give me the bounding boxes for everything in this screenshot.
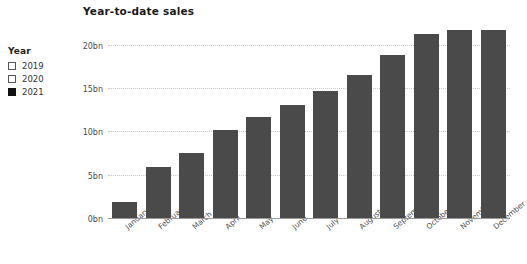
legend-item-label: 2019 [22,61,44,71]
y-axis-tick-label: 10bn [83,128,103,137]
bar[interactable] [481,30,506,219]
bar[interactable] [380,55,405,219]
x-axis-line [108,218,510,219]
bar-slot: May [242,24,276,219]
bar[interactable] [213,130,238,219]
bar-slot: October [410,24,444,219]
legend-item-label: 2021 [22,87,44,97]
checkbox-unchecked-icon[interactable] [8,75,16,83]
bar-slot: January [108,24,142,219]
bar-group: JanuaryFebruaryMarchAprilMayJuneJulyAugu… [108,24,510,219]
bar[interactable] [414,34,439,219]
legend-item-2020[interactable]: 2020 [8,74,74,84]
checkbox-checked-icon[interactable] [8,88,16,96]
bar-slot: February [142,24,176,219]
bar[interactable] [146,167,171,219]
y-axis-tick-label: 0bn [88,215,103,224]
y-axis-tick-label: 20bn [83,41,103,50]
legend-item-label: 2020 [22,74,44,84]
y-axis-tick-label: 15bn [83,85,103,94]
bar-slot: July [309,24,343,219]
bar-slot: April [209,24,243,219]
bar[interactable] [347,75,372,219]
bar-slot: September [376,24,410,219]
bar-slot: August [343,24,377,219]
legend-items: 201920202021 [8,61,74,97]
bar[interactable] [179,153,204,219]
bar[interactable] [313,91,338,219]
bar[interactable] [280,105,305,219]
y-axis-tick-label: 5bn [88,171,103,180]
legend-title: Year [8,46,74,56]
chart-plot-area: 0bn5bn10bn15bn20bn JanuaryFebruaryMarchA… [108,24,510,219]
bar[interactable] [447,30,472,219]
bar-slot: December [477,24,511,219]
legend-item-2021[interactable]: 2021 [8,87,74,97]
legend: Year 201920202021 [8,46,74,100]
bar-slot: November [443,24,477,219]
chart-title: Year-to-date sales [83,5,194,17]
bar-slot: March [175,24,209,219]
legend-item-2019[interactable]: 2019 [8,61,74,71]
bar-slot: June [276,24,310,219]
checkbox-unchecked-icon[interactable] [8,62,16,70]
bar[interactable] [246,117,271,219]
